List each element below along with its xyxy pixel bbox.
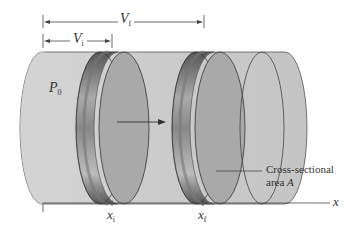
cross-section-prefix: area	[266, 176, 287, 188]
cross-section-line2: area A	[266, 176, 334, 189]
label-x-initial: xi	[107, 207, 115, 224]
diagram-graphic	[0, 0, 356, 242]
label-x-final: xf	[198, 207, 206, 224]
piston-initial	[76, 52, 149, 204]
x-initial-subscript: i	[113, 215, 115, 224]
v-initial-subscript: i	[82, 39, 84, 48]
label-v-initial: Vi	[73, 31, 84, 48]
cross-section-symbol: A	[287, 176, 294, 188]
v-initial-symbol: V	[73, 31, 82, 46]
label-v-final: Vf	[120, 11, 131, 28]
pressure-symbol: P	[49, 80, 58, 95]
label-cross-section: Cross-sectional area A	[266, 163, 334, 189]
label-x-axis: x	[333, 194, 339, 210]
cylinder	[20, 52, 307, 204]
cross-section-line1: Cross-sectional	[266, 163, 334, 176]
piston-final	[172, 52, 245, 204]
pressure-subscript: 0	[58, 88, 62, 97]
v-final-subscript: f	[129, 19, 132, 28]
v-final-symbol: V	[120, 11, 129, 26]
x-final-subscript: f	[204, 215, 207, 224]
piston-diagram: Vf Vi P0 xi xf x Cross-sectional area A	[0, 0, 356, 242]
label-pressure: P0	[49, 80, 62, 97]
